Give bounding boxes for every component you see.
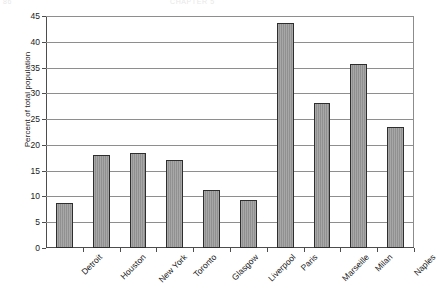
- bar-slot[interactable]: [267, 16, 304, 248]
- x-axis-label: Paris: [299, 252, 320, 273]
- bar-series: [46, 16, 414, 248]
- x-axis-label: Liverpool: [267, 252, 298, 283]
- y-axis-tick: [42, 248, 46, 249]
- bar[interactable]: [130, 153, 147, 248]
- bar-slot[interactable]: [340, 16, 377, 248]
- x-axis-tick: [414, 248, 415, 252]
- bar[interactable]: [387, 127, 404, 248]
- y-axis-tick-label: 35: [31, 63, 40, 73]
- y-axis-tick-label: 45: [31, 11, 40, 21]
- bar[interactable]: [203, 190, 220, 248]
- x-axis-label: Naples: [411, 252, 437, 278]
- x-axis-label: Marseille: [340, 252, 371, 283]
- y-axis-tick-label: 20: [31, 140, 40, 150]
- y-axis-tick-label: 25: [31, 114, 40, 124]
- bar[interactable]: [166, 160, 183, 248]
- bar[interactable]: [314, 103, 331, 248]
- y-axis-tick-label: 5: [35, 217, 40, 227]
- x-axis-label: Milan: [373, 252, 394, 273]
- x-axis-label: Houston: [119, 252, 148, 281]
- bar-slot[interactable]: [46, 16, 83, 248]
- y-axis-tick-label: 30: [31, 88, 40, 98]
- y-axis-title: Percent of total population: [23, 25, 32, 175]
- bar[interactable]: [240, 200, 257, 248]
- x-axis-label: Toronto: [191, 252, 218, 279]
- x-axis-labels: DetroitHoustonNew YorkTorontoGlasgowLive…: [46, 252, 414, 296]
- bar[interactable]: [56, 203, 73, 248]
- y-axis-tick-label: 40: [31, 37, 40, 47]
- bar-slot[interactable]: [120, 16, 157, 248]
- y-axis-tick-label: 0: [35, 243, 40, 253]
- bar-slot[interactable]: [156, 16, 193, 248]
- bar-slot[interactable]: [83, 16, 120, 248]
- plot-area: 051015202530354045: [46, 16, 414, 248]
- bar[interactable]: [350, 64, 367, 248]
- x-axis-label: Detroit: [80, 252, 105, 277]
- bar[interactable]: [277, 23, 294, 248]
- bar-slot[interactable]: [304, 16, 341, 248]
- y-axis-tick-label: 10: [31, 191, 40, 201]
- bar-slot[interactable]: [230, 16, 267, 248]
- x-axis-label: New York: [157, 252, 189, 284]
- bar-slot[interactable]: [193, 16, 230, 248]
- x-axis-label: Glasgow: [229, 252, 259, 282]
- bar[interactable]: [93, 155, 110, 248]
- bar-slot[interactable]: [377, 16, 414, 248]
- y-axis-tick-label: 15: [31, 166, 40, 176]
